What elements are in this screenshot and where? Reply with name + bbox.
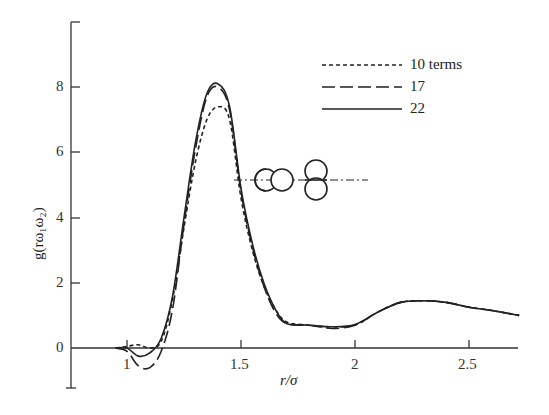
legend-label-22: 22 <box>410 100 425 117</box>
chart-canvas <box>0 0 549 415</box>
series-22 <box>116 83 520 356</box>
legend-label-10: 10 terms <box>410 56 462 73</box>
x-tick-2: 2 <box>351 356 359 373</box>
y-tick-6: 6 <box>56 143 64 160</box>
y-axis-label: g(rω₁ω₂) <box>30 207 47 260</box>
molecule-inset-icon <box>234 160 368 200</box>
x-axis-label: r/σ <box>280 372 297 389</box>
y-tick-4: 4 <box>56 209 64 226</box>
legend-label-17: 17 <box>410 78 425 95</box>
legend-lines <box>322 65 402 109</box>
x-tick-1-5: 1.5 <box>230 356 249 373</box>
series-10-terms <box>116 107 520 348</box>
y-tick-8: 8 <box>56 78 64 95</box>
y-tick-2: 2 <box>56 274 64 291</box>
y-tick-0: 0 <box>56 339 64 356</box>
data-curves <box>116 83 520 369</box>
axes <box>66 22 518 388</box>
x-tick-1: 1 <box>123 356 131 373</box>
x-tick-2-5: 2.5 <box>458 356 477 373</box>
